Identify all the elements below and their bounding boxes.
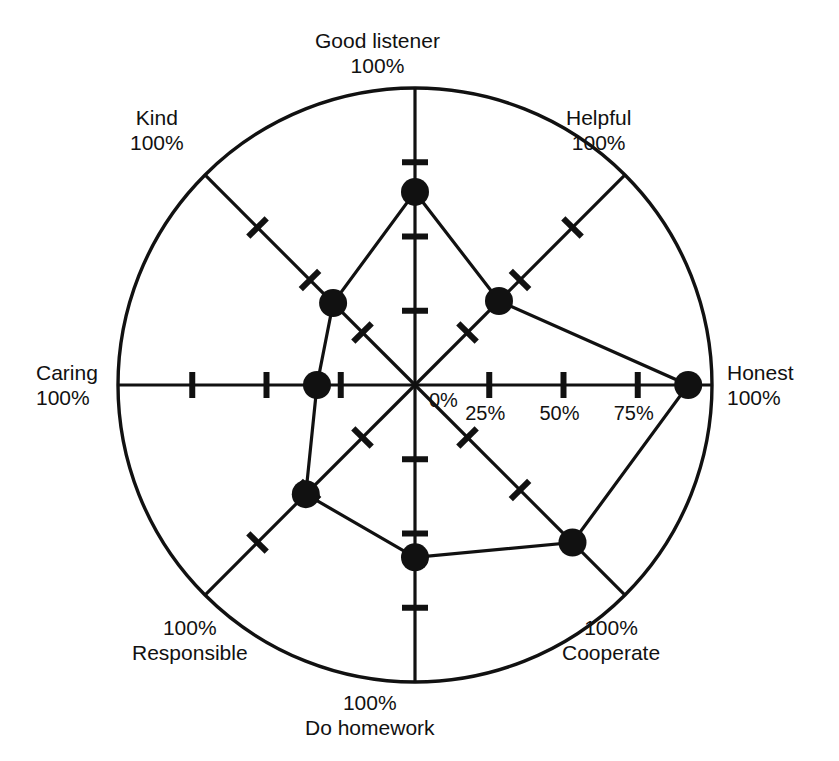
axis-label-cooperate: 100% Cooperate xyxy=(562,615,660,665)
axis-label-caring: Caring 100% xyxy=(36,360,98,410)
scale-tick-label-0: 0% xyxy=(429,389,458,412)
data-point-marker[interactable] xyxy=(674,371,702,399)
scale-tick-label-50: 50% xyxy=(540,402,580,425)
data-point-marker[interactable] xyxy=(292,480,320,508)
axis-label-good-listener: Good listener 100% xyxy=(315,28,440,78)
radar-chart-canvas xyxy=(0,0,839,761)
data-point-marker[interactable] xyxy=(401,543,429,571)
axis-spokes-group xyxy=(118,88,712,682)
data-point-marker[interactable] xyxy=(319,289,347,317)
axis-label-kind: Kind 100% xyxy=(130,105,184,155)
axis-label-good-listener-max: 100% xyxy=(315,53,440,78)
data-point-marker[interactable] xyxy=(303,371,331,399)
axis-label-honest-name: Honest xyxy=(727,360,794,385)
data-point-marker[interactable] xyxy=(485,287,513,315)
data-polygon-group xyxy=(306,192,688,557)
data-polygon xyxy=(306,192,688,557)
axis-label-kind-max: 100% xyxy=(130,130,184,155)
axis-label-cooperate-max: 100% xyxy=(562,615,660,640)
scale-tick-label-75: 75% xyxy=(614,402,654,425)
axis-label-do-homework-name: Do homework xyxy=(305,715,435,740)
axis-label-honest-max: 100% xyxy=(727,385,794,410)
axis-label-honest: Honest 100% xyxy=(727,360,794,410)
axis-label-helpful-name: Helpful xyxy=(566,105,631,130)
axis-label-do-homework-max: 100% xyxy=(305,690,435,715)
data-point-marker[interactable] xyxy=(559,529,587,557)
axis-label-responsible: 100% Responsible xyxy=(132,615,248,665)
axis-label-do-homework: 100% Do homework xyxy=(305,690,435,740)
axis-label-caring-max: 100% xyxy=(36,385,98,410)
axis-label-kind-name: Kind xyxy=(130,105,184,130)
data-point-marker[interactable] xyxy=(401,178,429,206)
axis-label-helpful: Helpful 100% xyxy=(566,105,631,155)
axis-label-helpful-max: 100% xyxy=(566,130,631,155)
axis-label-responsible-name: Responsible xyxy=(132,640,248,665)
axis-label-responsible-max: 100% xyxy=(132,615,248,640)
scale-tick-label-25: 25% xyxy=(465,402,505,425)
axis-label-caring-name: Caring xyxy=(36,360,98,385)
axis-label-cooperate-name: Cooperate xyxy=(562,640,660,665)
radar-chart: Good listener 100% Helpful 100% Honest 1… xyxy=(0,0,839,761)
axis-label-good-listener-name: Good listener xyxy=(315,28,440,53)
